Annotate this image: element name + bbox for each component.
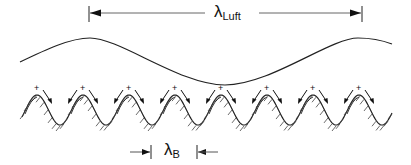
hatch-mark	[64, 118, 68, 123]
hatch-mark	[132, 102, 136, 107]
hatch-mark	[92, 114, 96, 119]
hatch-mark	[280, 121, 284, 126]
plus-sign-icon: +	[126, 83, 131, 93]
hatch-mark	[104, 125, 108, 130]
structure-wavelength-subscript: B	[173, 148, 180, 160]
plus-sign-icon: +	[264, 83, 269, 93]
hatch-mark	[140, 118, 144, 123]
hatch-mark	[84, 99, 88, 104]
hatch-mark	[312, 97, 316, 102]
lambda-symbol: λ	[214, 2, 223, 21]
arrowhead-right-icon	[142, 149, 150, 155]
hatch-mark	[332, 126, 336, 131]
hatch-mark	[228, 110, 232, 115]
hatch-mark	[232, 118, 236, 123]
lambda-symbol: λ	[164, 140, 173, 159]
hatch-mark	[52, 124, 56, 129]
hatch-mark	[136, 110, 140, 115]
hatch-mark	[236, 124, 240, 129]
hatch-mark	[248, 118, 252, 123]
hatch-mark	[156, 118, 160, 123]
hatch-mark	[20, 114, 24, 119]
plus-sign-icon: +	[34, 83, 39, 93]
hatch-mark	[56, 126, 60, 131]
hatch-mark	[128, 97, 132, 102]
structure-wavelength-label: λB	[164, 140, 180, 160]
hatch-mark	[48, 118, 52, 123]
hatch-mark	[272, 106, 276, 111]
hatch-mark	[188, 121, 192, 126]
hatch-mark	[368, 114, 372, 119]
hatch-mark	[388, 114, 392, 119]
structure-wave: ++++++++	[20, 83, 392, 131]
hatch-mark	[196, 125, 200, 130]
hatch-mark	[88, 106, 92, 111]
hatch-mark	[36, 97, 40, 102]
hatch-mark	[320, 110, 324, 115]
hatch-mark	[340, 118, 344, 123]
hatch-mark	[144, 124, 148, 129]
hatch-mark	[96, 121, 100, 126]
hatch-mark	[204, 114, 208, 119]
plus-sign-icon: +	[310, 83, 315, 93]
hatch-mark	[100, 125, 104, 130]
arrowhead-right-icon	[350, 10, 361, 17]
hatch-mark	[268, 99, 272, 104]
hatch-mark	[180, 106, 184, 111]
arrowhead-left-icon	[90, 10, 101, 17]
hatch-mark	[288, 125, 292, 130]
hatch-mark	[40, 102, 44, 107]
plus-sign-icon: +	[172, 83, 177, 93]
hatch-mark	[376, 125, 380, 130]
hatch-mark	[372, 121, 376, 126]
diagram-canvas: ++++++++	[0, 0, 411, 165]
hatch-mark	[276, 114, 280, 119]
hatch-mark	[184, 114, 188, 119]
hatch-mark	[192, 125, 196, 130]
hatch-mark	[240, 126, 244, 131]
hatch-mark	[296, 114, 300, 119]
plus-sign-icon: +	[356, 83, 361, 93]
hatch-mark	[360, 99, 364, 104]
plus-sign-icon: +	[218, 83, 223, 93]
hatch-mark	[112, 114, 116, 119]
hatch-mark	[224, 102, 228, 107]
hatch-mark	[324, 118, 328, 123]
hatch-mark	[364, 106, 368, 111]
hatch-mark	[176, 99, 180, 104]
hatch-mark	[148, 126, 152, 131]
plus-sign-icon: +	[80, 83, 85, 93]
hatch-mark	[44, 110, 48, 115]
air-wavelength-subscript: Luft	[223, 10, 241, 22]
air-wave	[20, 38, 392, 85]
hatch-mark	[316, 102, 320, 107]
hatch-mark	[380, 125, 384, 130]
air-wavelength-label: λLuft	[214, 2, 241, 22]
hatch-mark	[220, 97, 224, 102]
hatch-mark	[328, 124, 332, 129]
hatch-mark	[284, 125, 288, 130]
